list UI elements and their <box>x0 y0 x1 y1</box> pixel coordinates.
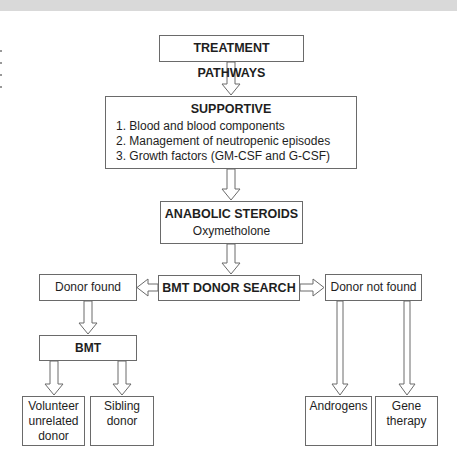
supportive-heading: SUPPORTIVE <box>106 102 356 117</box>
arrow-left-icon <box>137 279 158 296</box>
treatment-pathways-box: TREATMENT PATHWAYS <box>159 35 304 62</box>
leaf-line: unrelated <box>23 414 84 429</box>
leaf-line: donor <box>23 429 84 444</box>
donor-found-box: Donor found <box>39 274 137 301</box>
leaf-line: donor <box>91 414 153 429</box>
arrow-down-icon <box>79 301 97 334</box>
bmt-box: BMT <box>39 335 137 361</box>
arrow-right-icon <box>300 279 324 296</box>
donor-not-found-box: Donor not found <box>325 274 422 301</box>
gene-therapy-box: Gene therapy <box>375 396 438 446</box>
sibling-donor-box: Sibling donor <box>90 396 154 446</box>
leaf-line: Volunteer <box>23 399 84 414</box>
volunteer-unrelated-donor-box: Volunteer unrelated donor <box>22 396 85 446</box>
arrow-down-icon <box>222 169 240 200</box>
arrow-down-icon <box>113 361 131 395</box>
androgens-box: Androgens <box>305 396 372 446</box>
supportive-item: 2. Management of neutropenic episodes <box>106 134 356 149</box>
arrow-down-icon <box>222 244 240 274</box>
arrow-down-icon <box>399 301 415 395</box>
bmt-donor-search-box: BMT DONOR SEARCH <box>158 275 300 301</box>
anabolic-heading: ANABOLIC STEROIDS <box>161 207 302 222</box>
supportive-item: 1. Blood and blood components <box>106 119 356 134</box>
arrow-down-icon <box>45 361 63 395</box>
supportive-box: SUPPORTIVE 1. Blood and blood components… <box>105 96 357 169</box>
leaf-line: Sibling <box>91 399 153 414</box>
leaf-line: Androgens <box>306 399 371 414</box>
leaf-line: Gene <box>376 399 437 414</box>
supportive-item: 3. Growth factors (GM-CSF and G-CSF) <box>106 149 356 164</box>
anabolic-sub: Oxymetholone <box>161 224 302 239</box>
leaf-line: therapy <box>376 414 437 429</box>
anabolic-steroids-box: ANABOLIC STEROIDS Oxymetholone <box>160 201 303 244</box>
arrow-down-icon <box>332 301 348 395</box>
